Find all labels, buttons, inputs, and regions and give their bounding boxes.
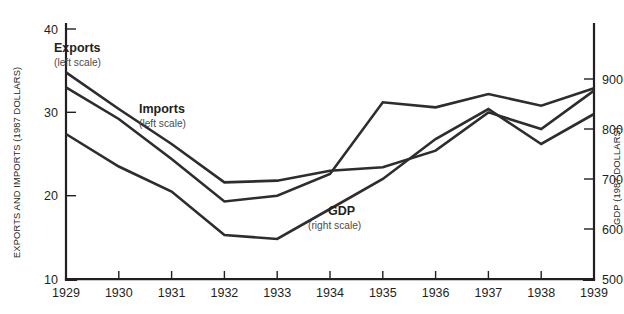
annotation-imports-sublabel: (left scale) <box>139 118 186 129</box>
y-tick-label-30: 30 <box>44 106 58 120</box>
y2-tick-label-500: 500 <box>602 273 623 287</box>
x-axis-ticks <box>119 271 541 279</box>
x-tick-label-1929: 1929 <box>52 286 80 300</box>
y2-tick-label-900: 900 <box>602 73 623 87</box>
annotation-gdp-sublabel: (right scale) <box>308 220 361 231</box>
y-tick-label-10: 10 <box>44 273 58 287</box>
x-tick-label-1930: 1930 <box>105 286 133 300</box>
line-chart: 40 30 20 10 900 800 700 600 500 1929 193… <box>0 0 624 314</box>
chart-figure: 40 30 20 10 900 800 700 600 500 1929 193… <box>0 0 624 314</box>
x-tick-label-1931: 1931 <box>158 286 186 300</box>
x-tick-label-1936: 1936 <box>422 286 450 300</box>
x-tick-label-1939: 1939 <box>580 286 608 300</box>
right-axis-ticks <box>584 79 594 229</box>
x-tick-label-1935: 1935 <box>369 286 397 300</box>
y2-axis-title: GDP (1987 DOLLARS) <box>612 127 622 225</box>
annotation-exports: Exports (left scale) <box>54 41 101 68</box>
x-tick-label-1934: 1934 <box>316 286 344 300</box>
right-axis-line <box>584 24 594 280</box>
x-tick-label-1937: 1937 <box>474 286 502 300</box>
x-tick-label-1933: 1933 <box>263 286 291 300</box>
x-tick-label-1932: 1932 <box>210 286 238 300</box>
annotation-exports-sublabel: (left scale) <box>54 57 101 68</box>
annotation-imports: Imports (left scale) <box>139 102 186 129</box>
annotation-exports-label: Exports <box>54 41 101 55</box>
annotation-gdp-label: GDP <box>328 204 355 218</box>
y-tick-label-20: 20 <box>44 189 58 203</box>
y-tick-label-40: 40 <box>44 23 58 37</box>
x-tick-label-1938: 1938 <box>527 286 555 300</box>
annotation-imports-label: Imports <box>139 102 185 116</box>
y-axis-title: EXPORTS AND IMPORTS (1987 DOLLARS) <box>12 67 22 258</box>
